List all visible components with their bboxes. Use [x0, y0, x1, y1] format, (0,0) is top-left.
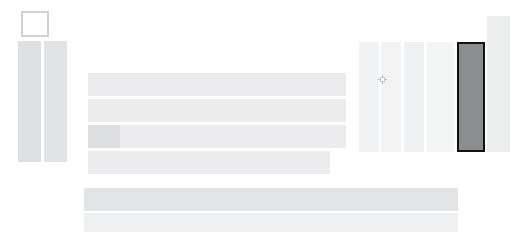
selected-column-highlight[interactable] [457, 42, 485, 152]
bottom-bar[interactable] [84, 188, 458, 211]
left-column-primary[interactable] [18, 41, 41, 162]
content-row[interactable] [88, 125, 346, 148]
content-row-leading-chip[interactable] [88, 125, 120, 148]
left-column-secondary[interactable] [44, 41, 67, 162]
right-tall-column[interactable] [487, 16, 510, 152]
content-row[interactable] [88, 151, 330, 174]
logo-placeholder-box[interactable] [21, 11, 49, 37]
bottom-bar[interactable] [84, 213, 458, 232]
right-column-item[interactable] [381, 42, 401, 152]
right-column-item[interactable] [404, 42, 424, 152]
right-column-item[interactable] [427, 42, 454, 152]
content-row[interactable] [88, 99, 346, 122]
content-row[interactable] [88, 73, 346, 96]
screenshot-canvas [0, 0, 527, 247]
right-column-item[interactable] [359, 42, 379, 152]
